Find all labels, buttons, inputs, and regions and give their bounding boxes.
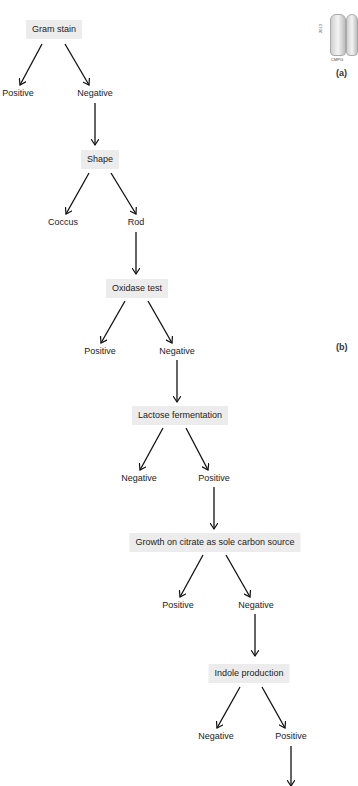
node-shape: Shape (81, 150, 119, 169)
leaf-shape-rod: Rod (128, 218, 145, 227)
photo-caption: CMPG (331, 57, 343, 62)
node-oxidase-test: Oxidase test (106, 279, 168, 298)
node-citrate-growth: Growth on citrate as sole carbon source (129, 533, 300, 552)
leaf-lactose-negative: Negative (121, 474, 157, 483)
panel-label-b: (b) (336, 342, 348, 352)
test-tube (346, 14, 358, 56)
leaf-oxidase-positive: Positive (84, 347, 116, 356)
node-gram-stain: Gram stain (26, 20, 82, 39)
node-lactose-fermentation: Lactose fermentation (132, 406, 228, 425)
leaf-lactose-positive: Positive (198, 474, 230, 483)
leaf-indole-negative: Negative (198, 732, 234, 741)
leaf-oxidase-negative: Negative (159, 347, 195, 356)
leaf-shape-coccus: Coccus (48, 218, 78, 227)
leaf-gram-negative: Negative (77, 89, 113, 98)
test-tube (330, 14, 346, 56)
leaf-gram-positive: Positive (2, 89, 34, 98)
leaf-citrate-positive: Positive (162, 601, 194, 610)
panel-label-a: (a) (336, 68, 347, 78)
leaf-indole-positive: Positive (275, 732, 307, 741)
leaf-citrate-negative: Negative (238, 601, 274, 610)
node-indole-production: Indole production (208, 664, 289, 683)
photo-side-text: 2013 (318, 24, 323, 33)
